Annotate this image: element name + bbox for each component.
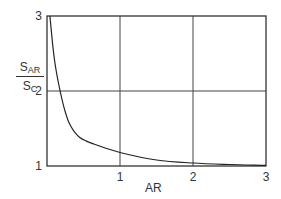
y-label-numerator: SAR: [16, 60, 44, 77]
y-label-den-sub: C: [31, 84, 38, 94]
y-label-den-main: S: [23, 79, 31, 93]
x-tick-3: 3: [259, 170, 273, 184]
x-axis-label: AR: [145, 181, 162, 195]
y-label-num-sub: AR: [28, 65, 41, 75]
y-tick-3: 3: [28, 9, 42, 23]
x-tick-2: 2: [186, 170, 200, 184]
y-axis-label: SAR SC: [16, 60, 44, 94]
grid-lines: [47, 16, 266, 166]
y-label-num-main: S: [20, 60, 28, 74]
chart-plot: [0, 0, 281, 199]
x-tick-1: 1: [113, 170, 127, 184]
y-label-denominator: SC: [16, 77, 44, 94]
y-tick-1: 1: [28, 159, 42, 173]
